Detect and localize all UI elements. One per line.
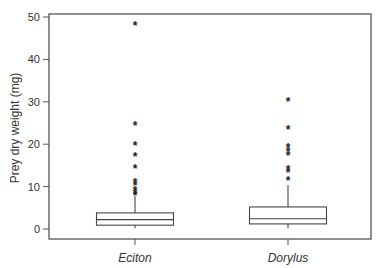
outlier-star-icon: * <box>133 162 138 176</box>
plot-area: Prey dry weight (mg) 01020304050 EcitonD… <box>0 0 380 268</box>
box-plot-chart: Prey dry weight (mg) 01020304050 EcitonD… <box>0 0 380 268</box>
outlier-star-icon: * <box>286 149 291 163</box>
outlier-star-icon: * <box>133 19 138 33</box>
y-tick-label: 40 <box>28 53 40 65</box>
x-axis-ticks: EcitonDorylus <box>118 239 308 265</box>
iqr-box <box>97 213 174 225</box>
box-eciton: ********** <box>97 19 174 228</box>
outlier-star-icon: * <box>133 189 138 203</box>
y-axis-ticks: 01020304050 <box>28 11 49 235</box>
y-tick-label: 20 <box>28 138 40 150</box>
y-tick-label: 50 <box>28 11 40 23</box>
box-dorylus: ******** <box>250 95 327 228</box>
box-series: ****************** <box>97 19 327 228</box>
outlier-star-icon: * <box>286 123 291 137</box>
outlier-star-icon: * <box>286 95 291 109</box>
outlier-star-icon: * <box>286 174 291 188</box>
outlier-star-icon: * <box>133 119 138 133</box>
y-tick-label: 30 <box>28 96 40 108</box>
y-axis-title: Prey dry weight (mg) <box>8 73 22 184</box>
category-label-dorylus: Dorylus <box>268 251 309 265</box>
y-tick-label: 10 <box>28 181 40 193</box>
category-label-eciton: Eciton <box>118 251 152 265</box>
iqr-box <box>250 207 327 224</box>
plot-frame <box>49 14 371 239</box>
y-tick-label: 0 <box>34 223 40 235</box>
